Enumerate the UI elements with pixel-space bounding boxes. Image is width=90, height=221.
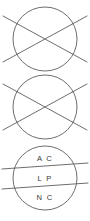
unit-3-banded-circle: A C L P N C bbox=[2, 146, 88, 210]
band-label-lp: L P bbox=[37, 174, 52, 183]
diagram-root: A C L P N C bbox=[0, 0, 90, 221]
band-label-ac: A C bbox=[37, 154, 53, 163]
unit-2-crossed-circle bbox=[3, 75, 87, 139]
band-label-nc: N C bbox=[37, 193, 54, 202]
stacked-circle-diagram: A C L P N C bbox=[0, 0, 90, 221]
unit-1-crossed-circle bbox=[3, 7, 87, 71]
